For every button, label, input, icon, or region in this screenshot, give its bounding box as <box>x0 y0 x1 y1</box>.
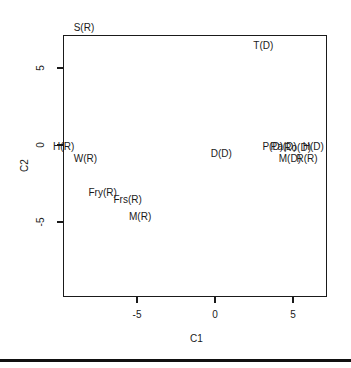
data-point-label: Frs(R) <box>113 195 141 205</box>
data-point-label: M(R) <box>129 212 151 222</box>
y-tick-label: 0 <box>35 142 46 148</box>
y-tick <box>57 221 63 223</box>
data-point-label: H(D) <box>303 142 324 152</box>
x-tick <box>214 297 216 303</box>
x-tick-label: -5 <box>133 309 142 320</box>
y-axis-label: C2 <box>19 159 30 172</box>
y-tick <box>57 67 63 69</box>
data-point-label: T(D) <box>253 41 273 51</box>
x-tick <box>292 297 294 303</box>
data-point-label: R(R) <box>296 154 317 164</box>
data-point-label: H(R) <box>53 142 74 152</box>
data-point-label: W(R) <box>74 154 97 164</box>
plot-area <box>63 35 327 297</box>
data-point-label: S(R) <box>74 23 95 33</box>
x-tick-label: 5 <box>290 309 296 320</box>
data-point-label: D(D) <box>211 149 232 159</box>
x-tick-label: 0 <box>212 309 218 320</box>
divider <box>0 359 351 362</box>
y-tick-label: 5 <box>35 65 46 71</box>
y-tick-label: -5 <box>35 218 46 227</box>
x-tick <box>136 297 138 303</box>
x-axis-label: C1 <box>190 333 203 344</box>
